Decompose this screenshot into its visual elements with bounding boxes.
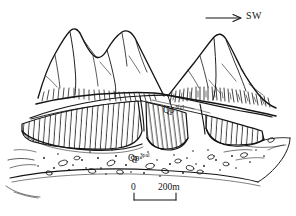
scale-bar-end-label: 200m xyxy=(158,183,180,193)
left-peak xyxy=(36,29,167,104)
unit-label-pal: Qp3pal xyxy=(128,153,150,164)
unit-label-fgl: Qp3fgl xyxy=(163,105,184,116)
direction-label-sw: SW xyxy=(246,11,262,21)
diagram-linework xyxy=(6,14,290,200)
unit-label-fgl-sup: 3fgl xyxy=(175,104,184,110)
unit-label-fgl-base: Qp xyxy=(163,105,175,115)
unit-label-pal-base: Qp xyxy=(128,153,140,163)
scale-bar xyxy=(134,193,176,200)
arrow-right-icon xyxy=(206,14,241,21)
valley-floor-pal xyxy=(6,137,290,198)
scale-bar-start-label: 0 xyxy=(131,183,136,193)
geological-block-diagram xyxy=(0,0,296,216)
unit-label-pal-sup: 3pal xyxy=(140,152,150,158)
